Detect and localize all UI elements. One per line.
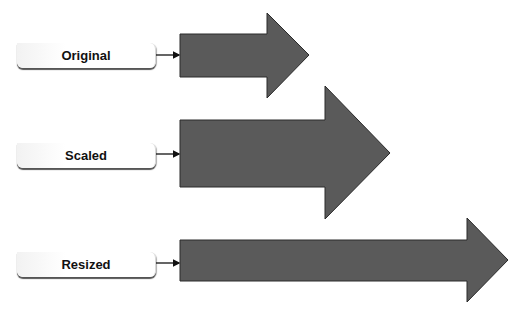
arrow-scaled-shape [180,86,390,219]
arrow-resized-shape [180,218,508,302]
diagram-canvas [0,0,520,313]
arrow-original-shape [180,13,309,98]
